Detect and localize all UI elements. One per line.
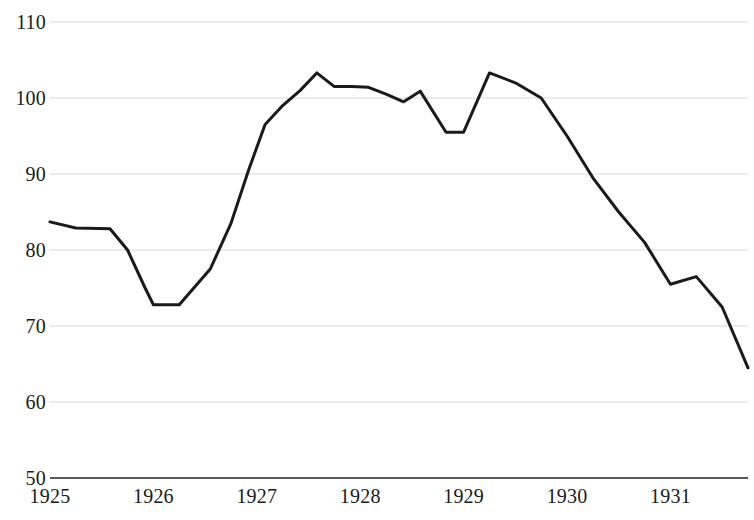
- chart-plot-area: [0, 0, 754, 520]
- data-series-group: [50, 73, 748, 368]
- x-tick-label: 1929: [443, 486, 484, 506]
- y-axis-tick-labels: 5060708090100110: [0, 0, 46, 520]
- y-tick-label: 110: [2, 12, 46, 32]
- data-line-1: [50, 73, 748, 368]
- y-tick-label: 60: [2, 392, 46, 412]
- y-tick-label: 70: [2, 316, 46, 336]
- y-tick-label: 100: [2, 88, 46, 108]
- x-tick-label: 1931: [650, 486, 691, 506]
- x-tick-label: 1927: [236, 486, 277, 506]
- y-tick-label: 90: [2, 164, 46, 184]
- x-tick-label: 1930: [547, 486, 588, 506]
- x-tick-label: 1926: [133, 486, 174, 506]
- gridlines: [50, 22, 748, 402]
- line-chart: 5060708090100110 19251926192719281929193…: [0, 0, 754, 520]
- x-tick-label: 1928: [340, 486, 381, 506]
- y-tick-label: 80: [2, 240, 46, 260]
- x-tick-label: 1925: [30, 486, 71, 506]
